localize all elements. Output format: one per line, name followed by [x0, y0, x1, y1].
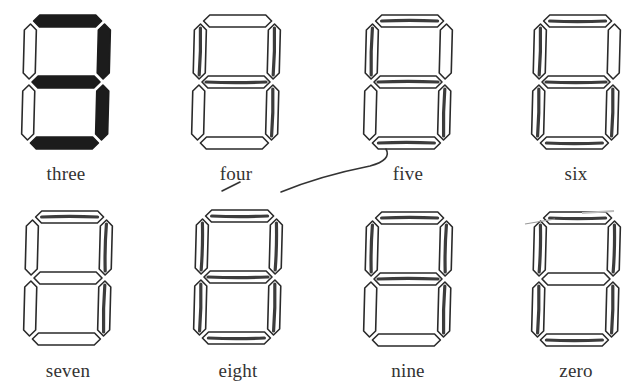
stray-pencil-line [0, 0, 639, 385]
